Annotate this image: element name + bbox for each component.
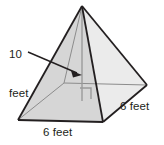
base-front-label: 6 feet xyxy=(43,126,72,139)
height-label: 10 feet xyxy=(9,22,29,126)
height-label-value: 10 xyxy=(9,48,29,61)
height-label-unit: feet xyxy=(9,87,29,100)
base-right-label: 6 feet xyxy=(120,100,149,113)
pyramid-figure: 10 feet 6 feet 6 feet xyxy=(0,0,164,145)
